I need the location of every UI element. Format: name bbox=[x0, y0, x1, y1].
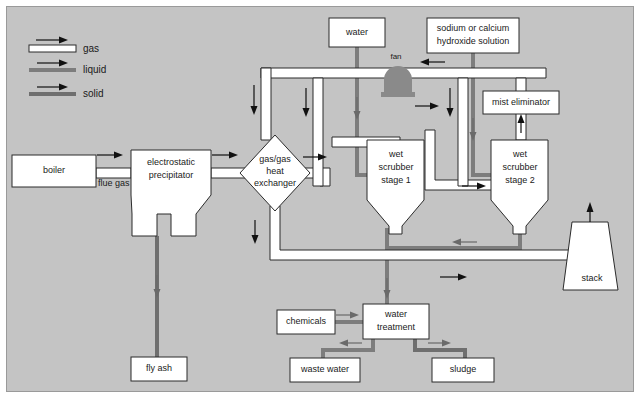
node-mist-eliminator[interactable]: mist eliminator bbox=[483, 91, 559, 114]
legend: gas liquid solid bbox=[29, 37, 106, 99]
node-wet-scrubber-stage-1[interactable]: wet scrubber stage 1 bbox=[367, 140, 424, 234]
fan-label: fan bbox=[390, 52, 401, 61]
node-waste-water[interactable]: waste water bbox=[290, 358, 360, 382]
pipe-scrubber2-drain-horiz bbox=[385, 246, 522, 250]
arrow-drain-down-to-treatment bbox=[384, 278, 391, 299]
pipe-topduct-down-scrubber2 bbox=[458, 78, 468, 186]
pipe-topduct-down-scrubber1 bbox=[313, 78, 323, 186]
wet-scrubber-stage-1-label-3: stage 1 bbox=[381, 175, 411, 185]
legend-label-liquid: liquid bbox=[83, 64, 106, 75]
wet-scrubber-stage-1-label-1: wet bbox=[388, 149, 404, 159]
arrow-esp-to-hx bbox=[212, 152, 238, 159]
arrow-down-to-scrubber1 bbox=[303, 88, 310, 117]
node-electrostatic-precipitator[interactable]: electrostatic precipitator bbox=[131, 150, 211, 236]
arrow-down-to-scrubber2 bbox=[447, 88, 454, 117]
legend-item-solid: solid bbox=[29, 84, 104, 99]
node-water[interactable]: water bbox=[329, 18, 385, 47]
node-boiler[interactable]: boiler bbox=[12, 155, 96, 187]
pipe-treatment-wastewater-horiz bbox=[321, 348, 375, 352]
arrow-flyash-down bbox=[154, 275, 161, 298]
node-sodium-hydroxide-solution[interactable]: sodium or calcium hydroxide solution bbox=[427, 18, 519, 53]
legend-liquid-arrow-head bbox=[59, 60, 68, 67]
arrow-topduct-leftward bbox=[420, 59, 445, 66]
wet-scrubber-stage-2-label-2: scrubber bbox=[502, 162, 537, 172]
arrow-chemicals-to-treatment bbox=[336, 312, 359, 319]
arrow-scrubber2-drain-left bbox=[452, 239, 477, 246]
arrow-bottom-duct-to-stack bbox=[440, 274, 467, 281]
heat-exchanger-label-1: gas/gas bbox=[259, 154, 291, 164]
arrow-treatment-to-wastewater bbox=[339, 340, 362, 347]
arrow-boiler-to-esp bbox=[97, 152, 123, 159]
flue-gas-label: flue gas bbox=[98, 178, 130, 188]
legend-swatch-liquid bbox=[29, 68, 76, 72]
arrow-water-down bbox=[354, 97, 361, 120]
arrow-hx-bottom-down bbox=[252, 220, 259, 244]
hydroxide-solution-label-1: sodium or calcium bbox=[437, 23, 510, 33]
node-stack[interactable]: stack bbox=[563, 222, 618, 290]
pipe-top-duct-to-hx bbox=[261, 68, 271, 140]
heat-exchanger-label-2: heat bbox=[266, 166, 284, 176]
heat-exchanger-label-3: exchanger bbox=[254, 178, 296, 188]
legend-label-solid: solid bbox=[83, 88, 104, 99]
arrow-fan-outlet bbox=[415, 103, 439, 110]
fly-ash-label: fly ash bbox=[146, 363, 172, 373]
diagram-canvas: gas liquid solid bbox=[0, 0, 640, 398]
hydroxide-solution-label-2: hydroxide solution bbox=[437, 36, 510, 46]
wet-scrubber-stage-2-label-1: wet bbox=[512, 149, 528, 159]
node-fan[interactable]: fan bbox=[381, 52, 415, 97]
water-treatment-label-2: treatment bbox=[377, 322, 416, 332]
arrow-treatment-to-sludge bbox=[428, 340, 451, 347]
legend-item-liquid: liquid bbox=[29, 60, 106, 75]
boiler-label: boiler bbox=[43, 165, 65, 175]
pipe-treatment-sludge-horiz bbox=[413, 348, 467, 352]
sludge-label: sludge bbox=[450, 364, 477, 374]
process-flow-diagram: gas liquid solid bbox=[0, 0, 640, 398]
waste-water-label: waste water bbox=[300, 364, 349, 374]
pipe-chemicals-to-treatment bbox=[330, 320, 368, 324]
electrostatic-precipitator-label-1: electrostatic bbox=[147, 157, 196, 167]
legend-swatch-gas bbox=[29, 45, 76, 52]
node-water-treatment[interactable]: water treatment bbox=[363, 304, 429, 339]
legend-gas-arrow-head bbox=[59, 37, 68, 44]
fan-icon[interactable] bbox=[384, 66, 412, 95]
water-label: water bbox=[345, 27, 368, 37]
legend-label-gas: gas bbox=[83, 43, 99, 54]
wet-scrubber-stage-1-label-2: scrubber bbox=[378, 162, 413, 172]
node-gas-gas-heat-exchanger[interactable]: gas/gas heat exchanger bbox=[240, 135, 310, 211]
node-fly-ash[interactable]: fly ash bbox=[131, 357, 187, 381]
legend-item-gas: gas bbox=[29, 37, 99, 54]
stack-label: stack bbox=[581, 273, 603, 283]
node-sludge[interactable]: sludge bbox=[432, 358, 494, 382]
arrow-hydroxide-down bbox=[470, 118, 477, 141]
arrow-topduct-down-to-hx bbox=[251, 85, 258, 115]
legend-solid-arrow-head bbox=[59, 84, 68, 91]
electrostatic-precipitator-label-2: precipitator bbox=[149, 170, 194, 180]
node-chemicals[interactable]: chemicals bbox=[277, 310, 335, 334]
water-treatment-label-1: water bbox=[384, 309, 407, 319]
pipe-boiler-to-esp bbox=[96, 168, 131, 178]
node-wet-scrubber-stage-2[interactable]: wet scrubber stage 2 bbox=[491, 140, 548, 234]
wet-scrubber-stage-2-label-3: stage 2 bbox=[505, 175, 535, 185]
chemicals-label: chemicals bbox=[286, 316, 327, 326]
fan-base bbox=[381, 92, 415, 97]
mist-eliminator-label: mist eliminator bbox=[492, 97, 550, 107]
arrow-stack-outlet bbox=[587, 202, 594, 222]
legend-swatch-solid bbox=[29, 92, 76, 96]
